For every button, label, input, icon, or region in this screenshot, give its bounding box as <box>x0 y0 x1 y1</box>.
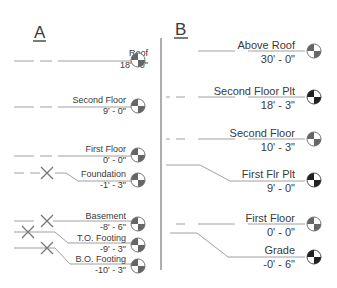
level-second-floor-b[interactable]: Second Floor 10' - 3" <box>166 127 321 153</box>
level-first-floor-b[interactable]: First Floor 0' - 0" <box>176 212 321 238</box>
svg-text:-0' - 6": -0' - 6" <box>263 258 295 270</box>
level-first-floor-a[interactable]: First Floor 0' - 0" <box>14 144 145 165</box>
svg-text:Second Floor: Second Floor <box>230 127 296 139</box>
svg-text:Grade: Grade <box>264 244 295 256</box>
level-first-flr-plt[interactable]: First Flr Plt 9' - 0" <box>166 165 321 194</box>
svg-text:9' - 0": 9' - 0" <box>267 182 295 194</box>
panel-b-label: B <box>175 20 186 39</box>
level-second-floor-plt[interactable]: Second Floor Plt 18' - 3" <box>166 85 321 111</box>
svg-text:9' - 0": 9' - 0" <box>103 106 126 116</box>
svg-text:0' - 0": 0' - 0" <box>267 226 295 238</box>
svg-text:Second Floor: Second Floor <box>72 95 126 105</box>
level-grade[interactable]: Grade -0' - 6" <box>170 233 321 270</box>
svg-text:First Floor: First Floor <box>86 144 127 154</box>
svg-text:-8' - 6": -8' - 6" <box>100 222 126 232</box>
svg-text:0' - 0": 0' - 0" <box>103 155 126 165</box>
svg-text:T.O. Footing: T.O. Footing <box>77 233 126 243</box>
level-foundation[interactable]: Foundation -1' - 3" <box>14 167 145 190</box>
level-diagram: A Roof 18' - 0" Second Floor 9' - 0" Fir… <box>0 0 337 288</box>
svg-text:B.O. Footing: B.O. Footing <box>75 254 126 264</box>
level-second-floor[interactable]: Second Floor 9' - 0" <box>14 95 145 116</box>
svg-text:30' - 0": 30' - 0" <box>261 53 295 65</box>
svg-text:First Floor: First Floor <box>246 212 296 224</box>
svg-text:Foundation: Foundation <box>81 169 126 179</box>
svg-text:10' - 3": 10' - 3" <box>261 141 295 153</box>
svg-text:-10' - 3": -10' - 3" <box>95 265 126 275</box>
svg-text:Above Roof: Above Roof <box>238 39 296 51</box>
svg-text:Second Floor Plt: Second Floor Plt <box>214 85 295 97</box>
level-above-roof[interactable]: Above Roof 30' - 0" <box>198 39 321 65</box>
svg-text:18' - 3": 18' - 3" <box>261 99 295 111</box>
svg-text:Basement: Basement <box>85 211 126 221</box>
svg-text:-9' - 3": -9' - 3" <box>100 244 126 254</box>
svg-text:First Flr Plt: First Flr Plt <box>242 168 295 180</box>
panel-a-label: A <box>34 23 46 42</box>
svg-text:-1' - 3": -1' - 3" <box>100 180 126 190</box>
level-basement[interactable]: Basement -8' - 6" <box>14 211 145 232</box>
level-roof[interactable]: Roof 18' - 0" <box>14 48 148 70</box>
